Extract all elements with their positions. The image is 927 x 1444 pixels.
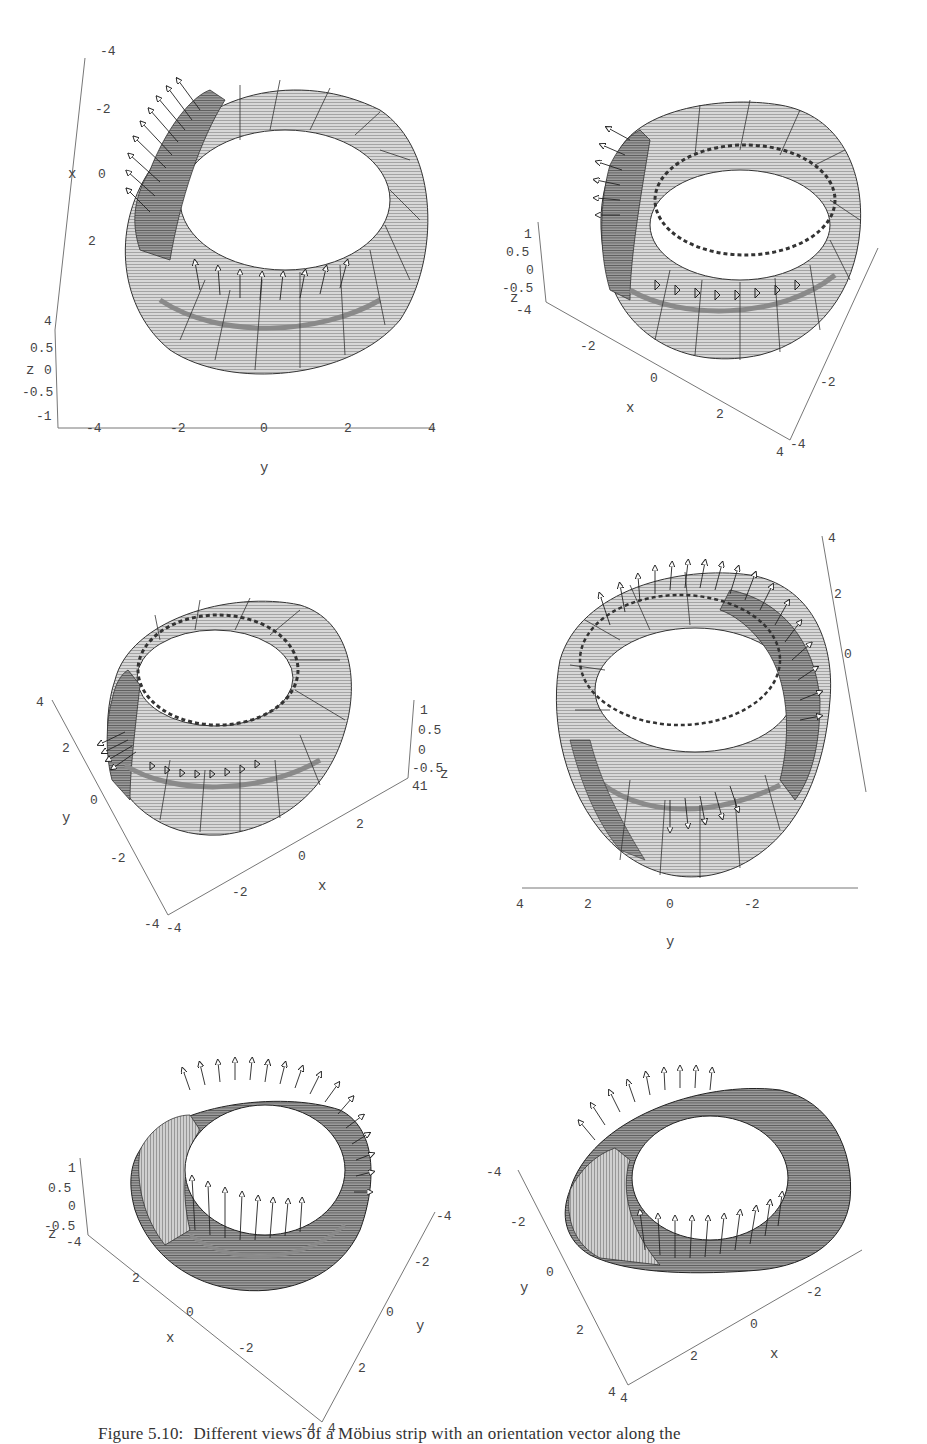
svg-text:-4: -4 bbox=[144, 917, 160, 932]
z-axis-ticks: 1 0.5 0 -0.5 z -4 bbox=[44, 1161, 82, 1250]
plot-panel-2: 1 0.5 0 -0.5 z -4 -2 0 2 4 x -4 -2 bbox=[480, 0, 927, 490]
svg-text:x: x bbox=[626, 400, 634, 416]
svg-text:z: z bbox=[26, 362, 34, 378]
svg-text:4: 4 bbox=[828, 531, 836, 546]
mobius-strip-view-2: 1 0.5 0 -0.5 z -4 -2 0 2 4 x -4 -2 bbox=[480, 0, 927, 490]
x-axis-ticks: -2 0 2 4 x bbox=[580, 339, 784, 460]
svg-text:2: 2 bbox=[344, 421, 352, 436]
mobius-strip-view-4: 4 2 0 -2 y 4 2 0 bbox=[480, 530, 927, 960]
svg-text:0: 0 bbox=[260, 421, 268, 436]
z-axis-ticks: 1 0.5 0 -0.5 z 41 bbox=[412, 703, 448, 794]
svg-text:y: y bbox=[666, 934, 674, 950]
svg-text:2: 2 bbox=[356, 817, 364, 832]
svg-text:0: 0 bbox=[98, 167, 106, 182]
svg-text:-4: -4 bbox=[516, 303, 532, 318]
svg-text:4: 4 bbox=[608, 1385, 616, 1400]
x-axis-ticks: 4 2 0 -2 x bbox=[620, 1285, 822, 1406]
plot-panel-3: 4 2 0 -2 -4 y -4 -2 0 2 x 1 0.5 0 -0.5 z… bbox=[0, 560, 480, 960]
plot-panel-4: 4 2 0 -2 y 4 2 0 bbox=[480, 530, 927, 960]
svg-text:-2: -2 bbox=[580, 339, 596, 354]
svg-text:-0.5: -0.5 bbox=[412, 761, 443, 776]
svg-text:4: 4 bbox=[428, 421, 436, 436]
svg-text:1: 1 bbox=[68, 1161, 76, 1176]
mobius-strip-view-1: -4 -2 0 2 x 4 0.5 0 -0.5 -1 z -4 -2 0 2 … bbox=[0, 0, 460, 490]
mobius-strip-view-5: 1 0.5 0 -0.5 z -4 2 0 -2 -4 x -4 -2 0 2 … bbox=[0, 1060, 480, 1410]
svg-text:0: 0 bbox=[546, 1265, 554, 1280]
svg-text:-4: -4 bbox=[436, 1209, 452, 1224]
svg-text:1: 1 bbox=[420, 703, 428, 718]
svg-text:0: 0 bbox=[298, 849, 306, 864]
z-axis-ticks: 4 0.5 0 -0.5 -1 z bbox=[22, 314, 53, 424]
svg-text:-2: -2 bbox=[238, 1341, 254, 1356]
svg-text:0.5: 0.5 bbox=[418, 723, 441, 738]
x-axis-ticks: -4 -2 0 2 x bbox=[166, 817, 364, 936]
svg-text:4: 4 bbox=[776, 445, 784, 460]
svg-text:0: 0 bbox=[418, 743, 426, 758]
y-axis-ticks: 4 2 0 -2 y bbox=[516, 897, 760, 950]
mobius-strip-view-3: 4 2 0 -2 -4 y -4 -2 0 2 x 1 0.5 0 -0.5 z… bbox=[0, 560, 480, 960]
svg-text:0: 0 bbox=[386, 1305, 394, 1320]
svg-text:2: 2 bbox=[132, 1271, 140, 1286]
svg-text:-2: -2 bbox=[820, 375, 836, 390]
svg-text:0: 0 bbox=[68, 1199, 76, 1214]
svg-text:y: y bbox=[62, 810, 70, 826]
svg-text:41: 41 bbox=[412, 779, 428, 794]
svg-text:0: 0 bbox=[90, 793, 98, 808]
svg-text:-4: -4 bbox=[790, 437, 806, 452]
svg-text:y: y bbox=[260, 460, 268, 476]
plot-panel-1: -4 -2 0 2 x 4 0.5 0 -0.5 -1 z -4 -2 0 2 … bbox=[0, 0, 460, 490]
svg-text:-4: -4 bbox=[486, 1165, 502, 1180]
svg-text:0: 0 bbox=[666, 897, 674, 912]
svg-text:2: 2 bbox=[358, 1361, 366, 1376]
z-axis-ticks: 1 0.5 0 -0.5 z -4 bbox=[502, 227, 534, 318]
svg-text:x: x bbox=[166, 1330, 174, 1346]
svg-text:-1: -1 bbox=[36, 409, 52, 424]
svg-text:2: 2 bbox=[88, 234, 96, 249]
svg-text:0: 0 bbox=[844, 647, 852, 662]
svg-text:-4: -4 bbox=[66, 1235, 82, 1250]
svg-text:4: 4 bbox=[44, 314, 52, 329]
y-axis-ticks: -4 -2 bbox=[790, 375, 836, 452]
svg-text:x: x bbox=[68, 166, 76, 182]
figure-caption-text: Different views of a Möbius strip with a… bbox=[194, 1424, 681, 1443]
figure-number: Figure 5.10: bbox=[98, 1424, 184, 1443]
svg-text:y: y bbox=[520, 1280, 528, 1296]
svg-text:y: y bbox=[416, 1318, 424, 1334]
svg-text:2: 2 bbox=[576, 1323, 584, 1338]
svg-text:-2: -2 bbox=[110, 851, 126, 866]
svg-text:-4: -4 bbox=[100, 44, 116, 59]
svg-text:-2: -2 bbox=[744, 897, 760, 912]
svg-text:2: 2 bbox=[690, 1349, 698, 1364]
plot-panel-5: 1 0.5 0 -0.5 z -4 2 0 -2 -4 x -4 -2 0 2 … bbox=[0, 1060, 480, 1410]
svg-text:4: 4 bbox=[620, 1391, 628, 1406]
svg-text:0: 0 bbox=[750, 1317, 758, 1332]
svg-text:-2: -2 bbox=[95, 102, 111, 117]
plot-panel-6: -4 -2 0 2 4 y 4 2 0 -2 x bbox=[480, 1060, 927, 1410]
svg-text:-4: -4 bbox=[166, 921, 182, 936]
svg-text:2: 2 bbox=[834, 587, 842, 602]
svg-text:4: 4 bbox=[36, 695, 44, 710]
svg-text:-2: -2 bbox=[232, 885, 248, 900]
svg-text:0.5: 0.5 bbox=[506, 245, 529, 260]
svg-text:2: 2 bbox=[584, 897, 592, 912]
svg-text:2: 2 bbox=[62, 741, 70, 756]
y-axis-ticks: -4 -2 0 2 4 y bbox=[86, 421, 436, 476]
svg-text:-2: -2 bbox=[510, 1215, 526, 1230]
svg-text:-0.5: -0.5 bbox=[22, 385, 53, 400]
x-axis-ticks: 2 0 -2 -4 x bbox=[132, 1271, 316, 1436]
svg-text:4: 4 bbox=[516, 897, 524, 912]
svg-text:0.5: 0.5 bbox=[30, 341, 53, 356]
svg-text:2: 2 bbox=[716, 407, 724, 422]
mobius-strip-view-6: -4 -2 0 2 4 y 4 2 0 -2 x bbox=[480, 1060, 927, 1410]
svg-text:0: 0 bbox=[650, 371, 658, 386]
svg-text:-2: -2 bbox=[170, 421, 186, 436]
svg-text:z: z bbox=[48, 1226, 56, 1242]
svg-text:x: x bbox=[318, 878, 326, 894]
figure-caption: Figure 5.10:Different views of a Möbius … bbox=[98, 1424, 898, 1444]
svg-text:-2: -2 bbox=[806, 1285, 822, 1300]
svg-text:x: x bbox=[770, 1346, 778, 1362]
svg-text:0: 0 bbox=[526, 263, 534, 278]
svg-text:0: 0 bbox=[44, 363, 52, 378]
svg-text:0: 0 bbox=[186, 1305, 194, 1320]
svg-text:-4: -4 bbox=[86, 421, 102, 436]
